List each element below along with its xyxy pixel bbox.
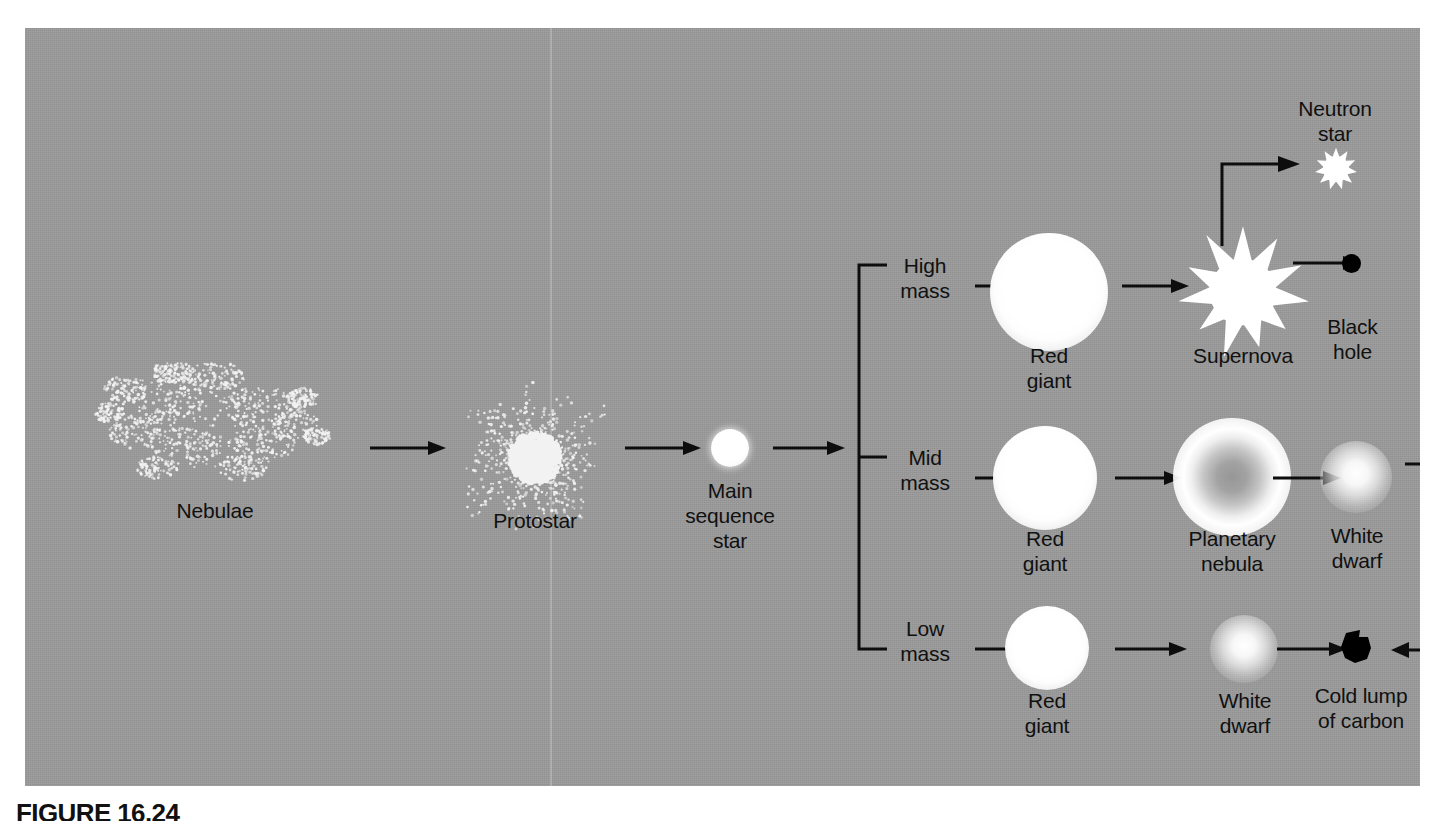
mid-mass-label: Mid mass — [880, 445, 970, 495]
black-hole-icon — [1342, 254, 1361, 273]
arrow-white-dwarf-to-carbon-lump — [1405, 460, 1420, 655]
red-giant-icon-high-mass — [990, 233, 1108, 351]
figure-root: Nebulae Protostar Main sequence star Hig — [0, 0, 1455, 821]
arrow-main-sequence-to-branches — [773, 438, 849, 458]
black-hole-label: Black hole — [1290, 314, 1415, 364]
planetary-nebula-label: Planetary nebula — [1157, 526, 1307, 576]
arrow-red-giant-to-white-dwarf-low — [1115, 639, 1191, 659]
arrow-supernova-to-neutron-star — [1220, 160, 1310, 250]
white-dwarf-icon-mid-mass — [1320, 441, 1392, 513]
red-giant-high-mass-label: Red giant — [989, 343, 1109, 393]
nebulae-label: Nebulae — [100, 498, 330, 523]
high-mass-label: High mass — [880, 253, 970, 303]
figure-caption: FIGURE 16.24 — [16, 798, 179, 821]
carbon-lump-label: Cold lump of carbon — [1271, 683, 1420, 733]
neutron-star-label: Neutron star — [1260, 96, 1410, 146]
red-giant-icon-mid-mass — [993, 426, 1097, 530]
red-giant-icon-low-mass — [1005, 606, 1089, 690]
white-dwarf-icon-low-mass — [1210, 615, 1278, 683]
arrow-nebulae-to-protostar — [370, 438, 450, 458]
red-giant-mid-mass-label: Red giant — [985, 526, 1105, 576]
protostar-label: Protostar — [450, 508, 620, 533]
neutron-star-icon — [1313, 146, 1359, 192]
main-sequence-star-icon — [711, 429, 749, 467]
white-dwarf-mid-mass-label: White dwarf — [1297, 523, 1417, 573]
carbon-lump-icon — [1331, 622, 1381, 672]
main-sequence-star-label: Main sequence star — [650, 478, 810, 553]
red-giant-low-mass-label: Red giant — [987, 688, 1107, 738]
arrow-protostar-to-main-sequence — [625, 438, 705, 458]
low-mass-label: Low mass — [880, 616, 970, 666]
nebula-dot-cloud-icon — [65, 328, 365, 508]
stellar-evolution-diagram-panel: Nebulae Protostar Main sequence star Hig — [25, 28, 1420, 786]
